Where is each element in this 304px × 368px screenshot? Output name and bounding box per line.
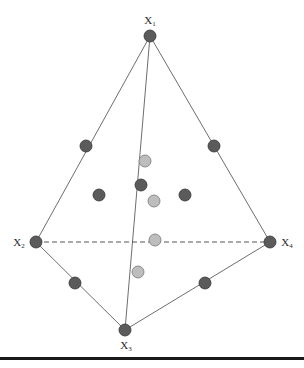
interior-point-center-marker — [148, 195, 160, 207]
vertex-label-subscript: 1 — [152, 20, 156, 28]
interior-point-on-x2-x4-marker — [149, 234, 161, 246]
vertex-label-subscript: 3 — [128, 345, 132, 353]
vertex-x1-marker — [144, 30, 156, 42]
vertex-label-base: X — [144, 14, 152, 26]
vertex-x3-marker — [119, 324, 131, 336]
vertex-label-x3: X3 — [120, 340, 131, 353]
face-centroid-right-marker — [179, 189, 191, 201]
midpoint-x3-x4-marker — [199, 277, 211, 289]
edge-x1-x2 — [36, 36, 150, 242]
bottom-rule-divider — [0, 357, 304, 360]
tetrahedron-diagram — [0, 0, 304, 368]
vertex-label-x1: X1 — [144, 15, 155, 28]
midpoint-x1-x4-marker — [208, 140, 220, 152]
edge-x3-x4 — [125, 242, 270, 330]
midpoint-x1-x3-marker — [135, 179, 147, 191]
vertex-x2-marker — [30, 236, 42, 248]
design-points — [69, 140, 220, 289]
vertex-label-subscript: 2 — [21, 242, 25, 250]
vertex-label-base: X — [120, 339, 128, 351]
vertex-x4-marker — [264, 236, 276, 248]
vertex-label-x2: X2 — [13, 237, 24, 250]
edge-x1-x4 — [150, 36, 270, 242]
midpoint-x1-x2-marker — [80, 140, 92, 152]
interior-point-lower-marker — [132, 266, 144, 278]
midpoint-x2-x3-marker — [69, 277, 81, 289]
face-centroid-left-marker — [93, 189, 105, 201]
vertex-label-base: X — [281, 236, 289, 248]
interior-point-upper-marker — [139, 155, 151, 167]
tetrahedron-vertices — [30, 30, 276, 336]
vertex-label-x4: X4 — [281, 237, 292, 250]
vertex-label-subscript: 4 — [289, 242, 293, 250]
vertex-label-base: X — [13, 236, 21, 248]
